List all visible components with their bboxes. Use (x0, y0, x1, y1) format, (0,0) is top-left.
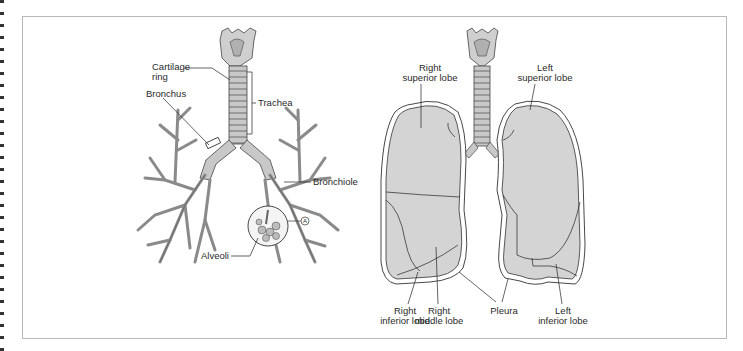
label-li-line2: inferior lobe (528, 316, 598, 326)
respiratory-diagram (0, 0, 743, 351)
label-right-middle-lobe: Right middle lobe (404, 306, 474, 326)
label-rs-line2: superior lobe (395, 73, 465, 83)
left-lung (502, 106, 580, 280)
bracket-trachea (247, 72, 252, 134)
leader-cartilage (184, 68, 230, 80)
leader-bronchus (163, 98, 209, 145)
label-bronchus: Bronchus (146, 89, 186, 99)
larynx-left (220, 28, 256, 66)
label-pleura: Pleura (479, 306, 529, 316)
label-ls-line2: superior lobe (510, 73, 580, 83)
label-right-superior-lobe: Right superior lobe (395, 63, 465, 83)
label-cartilage-ring: Cartilage ring (152, 62, 190, 82)
label-bronchiole: Bronchiole (313, 177, 358, 187)
label-left-superior-lobe: Left superior lobe (510, 63, 580, 83)
label-rm-line2: middle lobe (404, 316, 474, 326)
marker-a: A (301, 216, 309, 226)
label-trachea: Trachea (258, 98, 293, 108)
label-left-inferior-lobe: Left inferior lobe (528, 306, 598, 326)
label-alveoli: Alveoli (201, 251, 229, 261)
trachea-left (229, 66, 247, 144)
label-cartilage-line2: ring (152, 72, 190, 82)
